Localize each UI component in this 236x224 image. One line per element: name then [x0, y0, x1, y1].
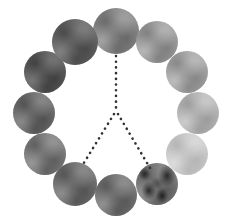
swatch-texture-light	[24, 133, 66, 175]
swatch-ring	[0, 0, 236, 224]
swatch-texture-light	[52, 19, 98, 65]
swatch-texture-light	[95, 174, 137, 216]
swatch-texture-light	[93, 8, 139, 54]
figure-canvas	[0, 0, 236, 224]
swatch-lower-right	[136, 163, 178, 205]
swatch-texture-light	[177, 92, 219, 134]
swatch-top	[93, 8, 139, 54]
swatch-left	[13, 92, 55, 134]
swatch-texture-mottle	[136, 163, 178, 205]
swatch-bottom	[95, 174, 137, 216]
swatch-texture-light	[13, 92, 55, 134]
swatch-left-lower	[24, 133, 66, 175]
swatch-texture-light	[166, 51, 208, 93]
swatch-right-upper	[166, 51, 208, 93]
swatch-upper-left	[52, 19, 98, 65]
swatch-right	[177, 92, 219, 134]
